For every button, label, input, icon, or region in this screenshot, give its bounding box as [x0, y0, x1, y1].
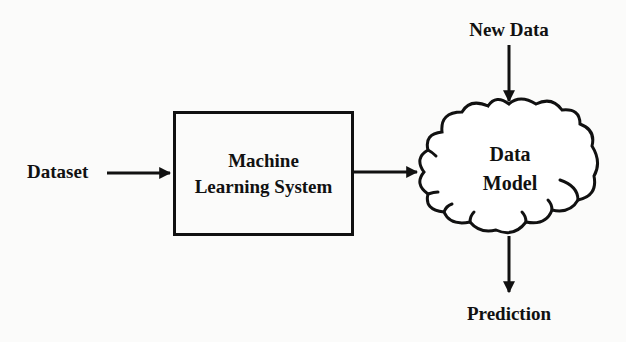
ml-diagram: Dataset Machine Learning System Data Mod… [0, 0, 626, 342]
data-model-node: Data Model [455, 140, 565, 198]
data-model-label-line2: Model [483, 169, 537, 198]
ml-system-box: Machine Learning System [173, 111, 354, 236]
ml-system-label-line1: Machine [228, 148, 299, 174]
data-model-label-line1: Data [489, 140, 530, 169]
prediction-label: Prediction [454, 303, 564, 325]
ml-system-label-line2: Learning System [195, 174, 333, 200]
new-data-label: New Data [459, 19, 559, 41]
dataset-label: Dataset [27, 161, 88, 183]
